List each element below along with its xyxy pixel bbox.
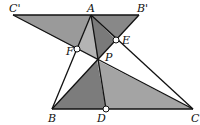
label-b-prime: B' <box>136 2 148 15</box>
label-c-prime: C' <box>9 2 20 15</box>
label-e: E <box>121 34 130 47</box>
point-f-marker <box>74 46 80 52</box>
label-a: A <box>86 2 95 15</box>
label-p: P <box>104 51 113 64</box>
geometry-diagram: C' A B' F E P B D C <box>0 0 200 125</box>
label-d: D <box>96 112 106 125</box>
region-b-p-d <box>52 60 106 109</box>
point-e-marker <box>113 37 119 43</box>
label-f: F <box>65 45 74 58</box>
label-b: B <box>47 112 56 125</box>
label-c: C <box>191 112 200 125</box>
